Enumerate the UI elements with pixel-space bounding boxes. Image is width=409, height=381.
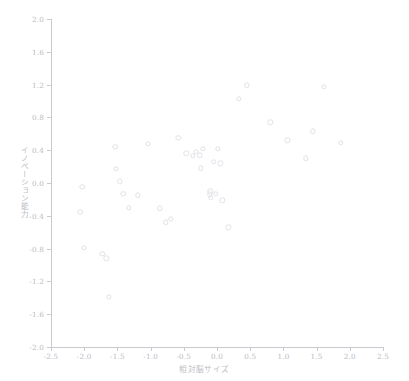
data-point [184, 151, 189, 156]
data-point [103, 256, 108, 261]
y-tick [47, 183, 51, 184]
x-tick [151, 347, 152, 351]
data-point [285, 138, 290, 143]
data-point [198, 166, 203, 171]
data-point [236, 96, 241, 101]
data-point [117, 179, 122, 184]
data-point [213, 191, 218, 196]
x-tick [184, 347, 185, 351]
x-tick [51, 347, 52, 351]
x-tick [350, 347, 351, 351]
x-tick-label: -2.5 [44, 352, 59, 361]
x-tick-label: -1.0 [143, 352, 158, 361]
y-tick-label: -2.0 [29, 343, 44, 352]
x-tick-label: 2.5 [377, 352, 389, 361]
x-tick [317, 347, 318, 351]
data-point [197, 152, 202, 157]
x-tick-label: -1.5 [110, 352, 125, 361]
x-tick-label: 0.0 [211, 352, 223, 361]
data-point [200, 146, 205, 151]
data-point [145, 141, 150, 146]
data-point [244, 83, 249, 88]
y-tick-label: 0.4 [32, 146, 44, 155]
y-tick [47, 52, 51, 53]
y-tick-label: -1.2 [29, 277, 44, 286]
x-tick [117, 347, 118, 351]
y-tick-label: 1.2 [32, 80, 44, 89]
x-tick-label: 1.0 [277, 352, 289, 361]
data-point [168, 216, 173, 221]
data-point [303, 156, 308, 161]
y-tick [47, 19, 51, 20]
x-tick [84, 347, 85, 351]
y-tick-label: 1.6 [32, 47, 44, 56]
y-tick-label: -1.6 [29, 310, 44, 319]
x-tick [217, 347, 218, 351]
x-tick-label: 1.5 [311, 352, 323, 361]
data-point [78, 209, 83, 214]
data-point [208, 195, 213, 200]
data-point [338, 140, 343, 145]
y-tick [47, 314, 51, 315]
x-tick-label: -0.5 [176, 352, 191, 361]
x-tick-label: 0.5 [244, 352, 256, 361]
x-tick [383, 347, 384, 351]
data-point [211, 159, 216, 164]
data-point [113, 144, 118, 149]
y-tick [47, 117, 51, 118]
data-point [220, 198, 225, 203]
y-tick [47, 85, 51, 86]
data-point [121, 191, 126, 196]
data-point [226, 225, 231, 230]
data-point [267, 120, 272, 125]
y-tick-label: -0.8 [29, 244, 44, 253]
data-point [106, 294, 111, 299]
x-tick-label: -2.0 [77, 352, 92, 361]
y-tick [47, 216, 51, 217]
data-point [215, 146, 220, 151]
y-tick [47, 281, 51, 282]
data-point [157, 206, 162, 211]
y-tick-label: -0.4 [29, 211, 44, 220]
data-point [80, 184, 85, 189]
data-point [126, 205, 131, 210]
y-axis-title: イノベーション能力 [17, 146, 28, 218]
data-point [218, 161, 223, 166]
y-tick-label: 0.0 [32, 179, 44, 188]
plot-area: -2.0-1.6-1.2-0.8-0.40.00.40.81.21.62.0 -… [51, 19, 383, 348]
data-point [113, 166, 118, 171]
data-point [81, 245, 86, 250]
y-axis-line [51, 19, 52, 348]
y-tick-label: 2.0 [32, 15, 44, 24]
x-axis-title: 相対脳サイズ [0, 363, 409, 374]
x-tick [283, 347, 284, 351]
data-point [135, 193, 140, 198]
data-point [176, 135, 181, 140]
scatter-plot-figure: -2.0-1.6-1.2-0.8-0.40.00.40.81.21.62.0 -… [0, 0, 409, 381]
y-tick [47, 249, 51, 250]
data-point [321, 84, 326, 89]
x-tick-label: 2.0 [344, 352, 356, 361]
data-point [310, 129, 315, 134]
y-tick-label: 0.8 [32, 113, 44, 122]
y-tick [47, 150, 51, 151]
x-tick [250, 347, 251, 351]
